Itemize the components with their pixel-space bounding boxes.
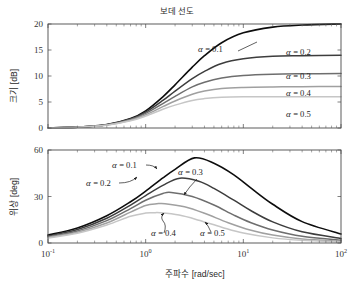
y-tick-label: 10 bbox=[34, 71, 44, 81]
y-tick-label: 20 bbox=[34, 19, 44, 29]
y-tick-label: 60 bbox=[34, 145, 44, 155]
annotation-mag-alpha-0-4: α= 0.4 bbox=[286, 88, 312, 98]
annotation-phase-alpha-0-5: α= 0.5 bbox=[200, 228, 225, 238]
y-tick-label: 0 bbox=[39, 123, 44, 133]
annotation-phase-alpha-0-2: α= 0.2 bbox=[86, 178, 111, 188]
annotation-mag-alpha-0-1: α= 0.1 bbox=[198, 44, 223, 54]
y-tick-label: 5 bbox=[39, 97, 44, 107]
y-tick-label: 0 bbox=[39, 238, 44, 248]
page-title: 보데 선도 bbox=[160, 6, 194, 16]
bode-plot-svg: 보데 선도 05101520 0306010-1100101102 크기[dB]… bbox=[0, 0, 355, 291]
annotation-mag-alpha-0-3: α= 0.3 bbox=[286, 71, 311, 81]
annotation-phase-alpha-0-1: α= 0.1 bbox=[112, 160, 137, 170]
annotation-phase-alpha-0-4: α= 0.4 bbox=[151, 228, 177, 238]
annotation-mag-alpha-0-5: α= 0.5 bbox=[286, 109, 311, 119]
y-tick-label: 30 bbox=[34, 192, 44, 202]
annotation-mag-alpha-0-2: α= 0.2 bbox=[286, 47, 311, 57]
bode-plot-figure: 보데 선도 05101520 0306010-1100101102 크기[dB]… bbox=[0, 0, 355, 291]
y-tick-label: 15 bbox=[34, 45, 44, 55]
phase-panel: 0306010-1100101102 bbox=[34, 145, 347, 259]
annotation-phase-alpha-0-3: α= 0.3 bbox=[178, 167, 203, 177]
frequency-axis-label: 주파수 [rad/sec] bbox=[165, 269, 224, 279]
phase-axis-label: 위상[deg] bbox=[9, 178, 19, 216]
